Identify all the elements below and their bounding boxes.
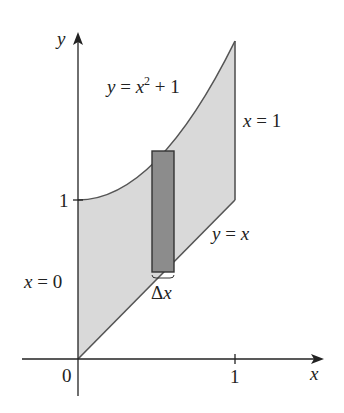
upper-curve-label-lhs: y: [105, 76, 116, 97]
x-axis-label: x: [309, 363, 319, 384]
delta-x-var: x: [162, 282, 172, 303]
x-tick-label-1: 1: [230, 366, 240, 387]
right-boundary-label: x = 1: [242, 110, 281, 131]
lower-line-label-var: x: [240, 223, 250, 244]
lower-line-label: y = x: [210, 223, 250, 244]
lower-line-label-eq: =: [220, 223, 240, 244]
delta-x-label: Δx: [151, 282, 172, 303]
lower-line-label-lhs: y: [210, 223, 221, 244]
left-boundary-label-val: 0: [53, 271, 63, 292]
left-boundary-label: x = 0: [23, 271, 62, 292]
upper-curve-label-rest: + 1: [150, 76, 180, 97]
upper-curve-label: y = x2 + 1: [105, 74, 180, 97]
region-diagram: y x 0 1 1 y = x2 + 1 x = 1 y = x x = 0 Δ…: [0, 0, 344, 413]
left-boundary-label-eq: =: [32, 271, 52, 292]
origin-label: 0: [62, 365, 72, 386]
right-boundary-label-eq: =: [251, 110, 271, 131]
y-tick-label-1: 1: [59, 190, 69, 211]
right-boundary-label-val: 1: [272, 110, 282, 131]
upper-curve-label-eq: =: [115, 76, 135, 97]
delta-symbol: Δ: [151, 282, 163, 303]
y-axis-label: y: [55, 28, 66, 49]
approximating-rectangle: [152, 151, 174, 272]
